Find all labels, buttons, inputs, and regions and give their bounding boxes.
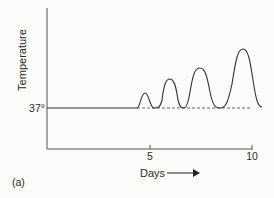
y-tick-label-37: 37° [29, 102, 45, 114]
x-tick-label-10: 10 [246, 150, 258, 162]
panel-label: (a) [12, 176, 25, 188]
y-axis-label: Temperature [16, 29, 28, 91]
temperature-curve [47, 49, 262, 108]
arrow-right-icon [167, 169, 200, 177]
x-axis-label: Days [140, 167, 166, 179]
chart: Temperature 37° 5 10 Days (a) [0, 0, 274, 198]
x-tick-label-5: 5 [147, 150, 153, 162]
